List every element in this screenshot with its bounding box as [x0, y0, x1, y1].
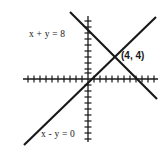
coordinate-plane: [0, 0, 167, 154]
equation-label-line1: x + y = 8: [29, 29, 65, 39]
intersection-point-label: (4, 4): [121, 50, 144, 61]
graph-figure: Graph 4.1: [0, 0, 167, 154]
equation-label-line2: x - y = 0: [41, 129, 75, 139]
